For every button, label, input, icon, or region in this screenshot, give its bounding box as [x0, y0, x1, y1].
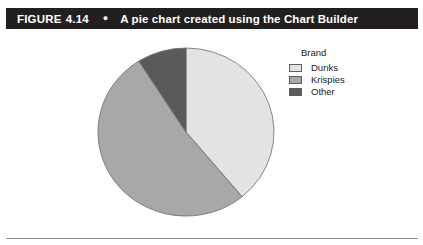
pie-chart: [96, 46, 276, 218]
legend-label-krispies: Krispies: [311, 74, 345, 85]
legend-item-other[interactable]: Other: [289, 86, 399, 97]
legend-swatch-dunks: [289, 64, 302, 72]
legend-item-dunks[interactable]: Dunks: [289, 62, 399, 73]
figure-label: FIGURE: [17, 13, 62, 25]
chart-area: Brand Dunks Krispies Other: [6, 31, 418, 226]
figure-frame: FIGURE 4.14 ● A pie chart created using …: [0, 0, 423, 245]
figure-bottom-rule: [6, 238, 418, 239]
legend-label-other: Other: [311, 86, 335, 97]
legend: Brand Dunks Krispies Other: [289, 47, 399, 98]
figure-caption: A pie chart created using the Chart Buil…: [120, 13, 358, 25]
figure-header-bar: FIGURE 4.14 ● A pie chart created using …: [6, 8, 418, 29]
legend-swatch-other: [289, 88, 302, 96]
bullet-icon: ●: [103, 14, 108, 23]
legend-swatch-krispies: [289, 76, 302, 84]
figure-number: 4.14: [66, 13, 89, 25]
legend-item-krispies[interactable]: Krispies: [289, 74, 399, 85]
legend-title: Brand: [301, 47, 399, 58]
pie-chart-svg: [96, 46, 276, 218]
legend-label-dunks: Dunks: [311, 62, 338, 73]
pie-slices: [98, 48, 274, 216]
